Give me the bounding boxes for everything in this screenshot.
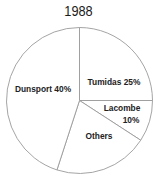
pie-chart: Tumidas 25%Lacombe10%OthersDunsport 40% bbox=[0, 0, 157, 190]
slice-label-lacombe: Lacombe bbox=[104, 103, 141, 114]
slice-label-dunsport: Dunsport 40% bbox=[15, 84, 71, 95]
slice-label-lacombe: 10% bbox=[123, 115, 140, 126]
pie-slice-tumidas bbox=[80, 28, 153, 101]
slice-label-others: Others bbox=[86, 131, 113, 142]
slice-label-tumidas: Tumidas 25% bbox=[88, 77, 141, 88]
